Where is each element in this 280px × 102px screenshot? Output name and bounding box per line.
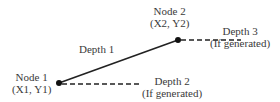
depth1-label: Depth 1	[79, 43, 114, 55]
depth2-subtext: (If generated)	[142, 87, 202, 99]
node1-dot	[56, 80, 62, 86]
depth3-label: Depth 3 (If generated)	[210, 25, 270, 49]
depth2-text: Depth 2	[142, 75, 202, 87]
node1-label: Node 1 (X1, Y1)	[12, 71, 51, 95]
node2-dot	[175, 37, 181, 43]
node1-coords: (X1, Y1)	[12, 83, 51, 95]
node2-label: Node 2 (X2, Y2)	[150, 5, 189, 29]
node1-name: Node 1	[12, 71, 51, 83]
depth2-label: Depth 2 (If generated)	[142, 75, 202, 99]
node2-name: Node 2	[150, 5, 189, 17]
depth3-subtext: (If generated)	[210, 37, 270, 49]
node2-coords: (X2, Y2)	[150, 17, 189, 29]
depth3-text: Depth 3	[210, 25, 270, 37]
depth1-text: Depth 1	[79, 43, 114, 55]
